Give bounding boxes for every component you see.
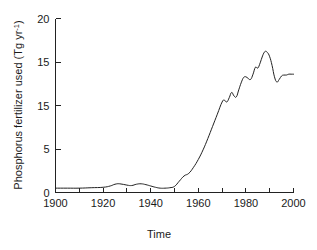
x-axis-tick-labels: 190019201940196019802000 xyxy=(43,197,305,209)
x-tick-label: 1960 xyxy=(186,197,210,209)
x-axis-title: Time xyxy=(147,228,171,240)
y-tick-label: 15 xyxy=(37,56,49,68)
phosphorus-fertilizer-line-chart: 05151520 190019201940196019802000 Time P… xyxy=(0,0,317,250)
x-tick-label: 1980 xyxy=(234,197,258,209)
y-axis-title-group: Phosphorus fertilizer used (Tg yr-1) xyxy=(12,20,25,189)
x-tick-label: 1920 xyxy=(91,197,115,209)
x-tick-label: 2000 xyxy=(281,197,305,209)
y-tick-label: 15 xyxy=(37,100,49,112)
x-tick-label: 1940 xyxy=(138,197,162,209)
y-tick-label: 20 xyxy=(37,13,49,25)
y-axis-tick-labels: 05151520 xyxy=(37,13,49,199)
data-series-line xyxy=(56,51,294,188)
y-axis-tickmarks xyxy=(56,19,61,193)
figure-container: 05151520 190019201940196019802000 Time P… xyxy=(0,0,317,250)
y-tick-label: 5 xyxy=(43,143,49,155)
x-tick-label: 1900 xyxy=(43,197,67,209)
y-axis-title: Phosphorus fertilizer used (Tg yr-1) xyxy=(12,20,25,189)
x-axis-tickmarks xyxy=(79,188,293,193)
